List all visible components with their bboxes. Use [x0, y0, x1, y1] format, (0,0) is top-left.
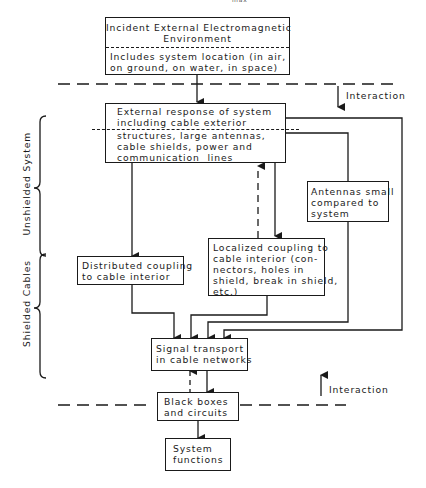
- distributed-coupling-box: Distributed coupling to cable interior: [77, 256, 184, 285]
- header-fragment: max: [232, 0, 248, 3]
- unshielded-system-label: Unshielded System: [21, 136, 32, 236]
- system-functions-box: System functions: [165, 438, 231, 471]
- unshielded-brace: [34, 116, 46, 256]
- black-boxes-box: Black boxes and circuits: [157, 392, 239, 421]
- shielded-brace: [34, 254, 46, 378]
- localized-coupling-box: Localized coupling to cable interior (co…: [208, 238, 325, 296]
- signal-transport-box: Signal transport in cable networks: [151, 338, 248, 371]
- external-response-box: External response of system including ca…: [105, 103, 286, 163]
- interaction-label-bottom: Interaction: [329, 384, 389, 395]
- black-boxes-text: Black boxes and circuits: [158, 393, 238, 418]
- external-response-line1: External response of system including ca…: [106, 104, 285, 128]
- system-functions-text: System functions: [166, 439, 230, 465]
- antennas-small-text: Antennas small compared to system: [308, 182, 388, 219]
- interaction-label-top: Interaction: [346, 90, 406, 101]
- incident-detail: Includes system location (in air, on gro…: [106, 48, 289, 73]
- localized-coupling-text: Localized coupling to cable interior (co…: [209, 239, 324, 297]
- external-response-line2: structures, large antennas, cable shield…: [106, 130, 285, 163]
- incident-environment-box: Incident External Electromagnetic Enviro…: [105, 17, 290, 75]
- em-interaction-diagram: max Incident External Electromagnetic En…: [0, 0, 426, 488]
- signal-transport-text: Signal transport in cable networks: [152, 339, 247, 365]
- shielded-cables-label: Shielded Cables: [21, 254, 32, 354]
- antennas-small-box: Antennas small compared to system: [307, 181, 389, 222]
- incident-title: Incident External Electromagnetic Enviro…: [106, 18, 289, 44]
- distributed-coupling-text: Distributed coupling to cable interior: [78, 257, 183, 282]
